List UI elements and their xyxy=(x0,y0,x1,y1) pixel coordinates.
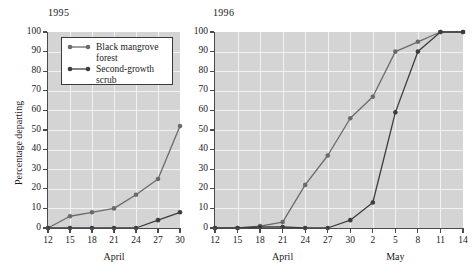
y-axis-tick-label: 100 xyxy=(12,26,41,36)
x-axis-tick xyxy=(157,229,158,233)
x-axis-tick-label: 5 xyxy=(383,235,407,245)
y-axis-tick-label: 10 xyxy=(179,202,208,212)
y-axis-tick-label: 30 xyxy=(12,163,41,173)
x-axis-tick-label: 11 xyxy=(428,235,452,245)
x-axis-tick-label: 14 xyxy=(451,235,473,245)
legend-item-mangrove: Black mangrove xyxy=(67,42,159,52)
data-point xyxy=(348,218,353,223)
y-axis-tick xyxy=(43,110,47,111)
data-point xyxy=(371,200,376,205)
legend-swatch-mangrove xyxy=(67,42,92,52)
y-axis-tick xyxy=(210,90,214,91)
x-axis-tick xyxy=(69,229,70,233)
y-axis-tick xyxy=(43,71,47,72)
x-axis-tick xyxy=(113,229,114,233)
y-axis-tick-label: 70 xyxy=(179,84,208,94)
y-axis-tick-label: 20 xyxy=(179,182,208,192)
y-axis-tick-label: 50 xyxy=(12,124,41,134)
series-line-scrub xyxy=(215,32,463,228)
y-axis-line xyxy=(214,32,215,229)
data-point xyxy=(156,218,161,223)
data-point xyxy=(325,153,330,158)
legend-label: Second-growth xyxy=(96,64,154,74)
data-point xyxy=(68,214,73,219)
x-axis-tick-label: 18 xyxy=(80,235,104,245)
x-axis-tick xyxy=(372,229,373,233)
data-point xyxy=(134,192,139,197)
y-axis-tick-label: 100 xyxy=(179,26,208,36)
y-axis-tick xyxy=(43,208,47,209)
legend-item-scrub: Second-growth xyxy=(67,64,154,74)
x-axis-tick xyxy=(327,229,328,233)
y-axis-tick-label: 60 xyxy=(12,104,41,114)
figure-root: Percentage departing 1995 Black mangrove… xyxy=(0,0,473,269)
y-axis-tick xyxy=(43,227,47,228)
x-axis-tick-label: 21 xyxy=(271,235,295,245)
x-axis-tick-label: 18 xyxy=(248,235,272,245)
y-axis-tick xyxy=(43,90,47,91)
y-axis-tick xyxy=(43,169,47,170)
x-axis-month-label: April xyxy=(253,251,313,262)
x-axis-tick xyxy=(417,229,418,233)
y-axis-tick-label: 20 xyxy=(12,182,41,192)
x-axis-tick xyxy=(462,229,463,233)
y-axis-tick-label: 90 xyxy=(179,45,208,55)
y-axis-tick xyxy=(210,31,214,32)
y-axis-tick-label: 10 xyxy=(12,202,41,212)
y-axis-tick xyxy=(210,110,214,111)
data-point xyxy=(393,49,398,54)
data-point xyxy=(438,30,443,35)
y-axis-tick-label: 70 xyxy=(12,84,41,94)
chart-panel-1996: 1996 10090807060504030201001215182124273… xyxy=(205,0,473,269)
y-axis-tick xyxy=(43,129,47,130)
legend-label: Black mangrove xyxy=(96,42,159,52)
legend-label-continued: forest xyxy=(96,53,118,63)
data-point xyxy=(90,210,95,215)
x-axis-month-label: May xyxy=(365,251,425,262)
x-axis-tick xyxy=(440,229,441,233)
data-point xyxy=(303,183,308,188)
x-axis-tick-label: 15 xyxy=(226,235,250,245)
data-point xyxy=(461,30,466,35)
data-point xyxy=(393,110,398,115)
y-axis-tick-label: 40 xyxy=(179,143,208,153)
series-line-mangrove xyxy=(48,126,180,228)
x-axis-tick xyxy=(350,229,351,233)
y-axis-tick xyxy=(210,227,214,228)
x-axis-line xyxy=(214,228,464,229)
x-axis-tick-label: 12 xyxy=(36,235,60,245)
y-axis-tick xyxy=(210,71,214,72)
legend-label-continued: scrub xyxy=(96,75,117,85)
data-point xyxy=(416,40,421,45)
x-axis-tick-label: 15 xyxy=(58,235,82,245)
x-axis-month-label: April xyxy=(84,251,144,262)
x-axis-tick-label: 12 xyxy=(203,235,227,245)
data-point xyxy=(112,206,117,211)
x-axis-tick xyxy=(214,229,215,233)
legend-swatch-scrub xyxy=(67,64,92,74)
y-axis-tick-label: 0 xyxy=(179,222,208,232)
y-axis-tick-label: 80 xyxy=(179,65,208,75)
y-axis-tick-label: 40 xyxy=(12,143,41,153)
series-line-mangrove xyxy=(215,32,463,228)
x-axis-tick xyxy=(305,229,306,233)
y-axis-line xyxy=(47,32,48,229)
x-axis-tick-label: 30 xyxy=(168,235,192,245)
y-axis-tick xyxy=(43,188,47,189)
y-axis-tick xyxy=(43,149,47,150)
x-axis-tick-label: 24 xyxy=(293,235,317,245)
y-axis-tick-label: 50 xyxy=(179,124,208,134)
y-axis-tick xyxy=(43,31,47,32)
data-point xyxy=(371,94,376,99)
x-axis-tick-label: 21 xyxy=(102,235,126,245)
x-axis-tick-label: 27 xyxy=(146,235,170,245)
x-axis-tick-label: 27 xyxy=(316,235,340,245)
x-axis-tick-label: 24 xyxy=(124,235,148,245)
x-axis-tick xyxy=(91,229,92,233)
x-axis-tick xyxy=(282,229,283,233)
y-axis-tick-label: 30 xyxy=(179,163,208,173)
y-axis-tick xyxy=(210,208,214,209)
y-axis-tick xyxy=(210,169,214,170)
data-point xyxy=(348,116,353,121)
y-axis-tick xyxy=(210,51,214,52)
